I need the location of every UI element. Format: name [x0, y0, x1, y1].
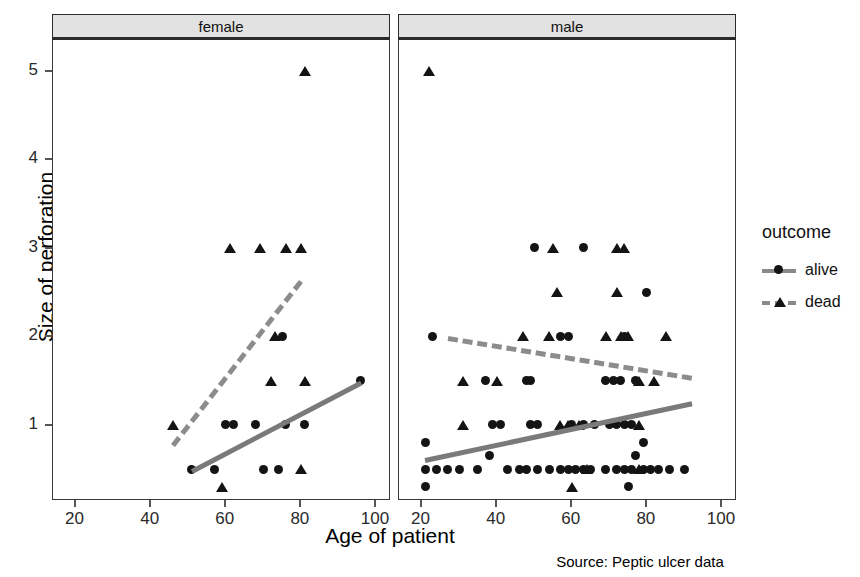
data-point-triangle: [581, 464, 593, 474]
legend-key: [762, 293, 796, 311]
x-tick-mark: [299, 500, 301, 507]
data-point-triangle: [622, 331, 634, 341]
data-point-triangle: [491, 376, 503, 386]
data-point-circle: [665, 465, 674, 474]
data-point-circle: [274, 465, 283, 474]
data-point-circle: [624, 482, 633, 491]
data-point-triangle: [295, 464, 307, 474]
data-point-triangle: [543, 331, 555, 341]
data-point-triangle: [254, 243, 266, 253]
y-tick-mark: [45, 335, 52, 337]
data-point-circle: [601, 465, 610, 474]
data-point-circle: [533, 465, 542, 474]
legend-item-alive[interactable]: alive: [762, 257, 860, 283]
data-point-triangle: [216, 482, 228, 492]
x-tick-label: 60: [551, 509, 591, 529]
panel-male: [398, 40, 736, 500]
x-tick-mark: [224, 500, 226, 507]
legend: outcome alivedead: [762, 222, 860, 321]
data-point-circle: [526, 376, 535, 385]
y-tick-mark: [45, 247, 52, 249]
data-point-circle: [654, 465, 663, 474]
data-point-triangle: [600, 331, 612, 341]
x-tick-mark: [720, 500, 722, 507]
data-point-circle: [616, 376, 625, 385]
data-point-triangle: [547, 243, 559, 253]
x-tick-mark: [495, 500, 497, 507]
panel-strip-label: male: [551, 18, 584, 35]
data-point-circle: [631, 451, 640, 460]
data-point-circle: [564, 332, 573, 341]
data-point-triangle: [299, 376, 311, 386]
data-point-triangle: [299, 66, 311, 76]
x-tick-mark: [420, 500, 422, 507]
y-tick-mark: [45, 158, 52, 160]
chart-figure: Size of perforation Age of patient Sourc…: [0, 0, 860, 577]
data-point-circle: [579, 243, 588, 252]
data-point-triangle: [566, 482, 578, 492]
data-point-triangle: [517, 331, 529, 341]
data-point-circle: [432, 465, 441, 474]
data-point-triangle: [633, 376, 645, 386]
x-tick-label: 40: [476, 509, 516, 529]
x-tick-label: 20: [55, 509, 95, 529]
y-tick-label: 1: [12, 414, 38, 434]
x-tick-mark: [149, 500, 151, 507]
data-point-circle: [455, 465, 464, 474]
data-point-triangle: [265, 376, 277, 386]
data-point-circle: [421, 438, 430, 447]
data-point-triangle: [660, 331, 672, 341]
data-point-triangle: [269, 331, 281, 341]
legend-triangle-icon: [774, 297, 786, 307]
legend-item-dead[interactable]: dead: [762, 289, 860, 315]
y-tick-label: 5: [12, 60, 38, 80]
y-tick-mark: [45, 70, 52, 72]
data-point-circle: [229, 420, 238, 429]
legend-title: outcome: [762, 222, 860, 243]
data-point-circle: [473, 465, 482, 474]
y-tick-mark: [45, 424, 52, 426]
y-tick-label: 2: [12, 325, 38, 345]
data-point-circle: [680, 465, 689, 474]
data-point-circle: [481, 376, 490, 385]
legend-item-label: dead: [805, 293, 841, 311]
x-tick-label: 20: [401, 509, 441, 529]
data-point-triangle: [633, 420, 645, 430]
x-tick-mark: [74, 500, 76, 507]
data-point-circle: [485, 451, 494, 460]
data-point-circle: [496, 420, 505, 429]
x-tick-label: 40: [130, 509, 170, 529]
x-tick-label: 80: [280, 509, 320, 529]
data-point-circle: [428, 332, 437, 341]
data-point-circle: [259, 465, 268, 474]
x-tick-label: 100: [355, 509, 395, 529]
data-point-triangle: [611, 287, 623, 297]
trend-line-alive: [425, 402, 693, 464]
data-point-triangle: [648, 376, 660, 386]
data-point-circle: [639, 438, 648, 447]
data-point-triangle: [423, 66, 435, 76]
x-tick-mark: [570, 500, 572, 507]
data-point-circle: [530, 243, 539, 252]
legend-item-label: alive: [805, 261, 838, 279]
x-tick-label: 100: [701, 509, 741, 529]
panel-female: [52, 40, 390, 500]
x-tick-mark: [374, 500, 376, 507]
source-caption: Source: Peptic ulcer data: [440, 553, 840, 570]
plot-area-female: [53, 40, 389, 499]
x-tick-label: 80: [626, 509, 666, 529]
data-point-triangle: [280, 243, 292, 253]
data-point-circle: [300, 420, 309, 429]
data-point-circle: [522, 465, 531, 474]
data-point-circle: [421, 465, 430, 474]
x-tick-label: 60: [205, 509, 245, 529]
data-point-circle: [642, 288, 651, 297]
data-point-triangle: [551, 287, 563, 297]
data-point-circle: [210, 465, 219, 474]
legend-key: [762, 261, 796, 279]
panel-strip-male: male: [398, 14, 736, 40]
legend-circle-icon: [774, 265, 783, 274]
data-point-circle: [503, 465, 512, 474]
data-point-triangle: [224, 243, 236, 253]
plot-area-male: [399, 40, 735, 499]
